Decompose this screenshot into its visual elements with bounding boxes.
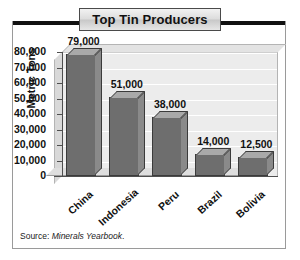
y-axis-tick-label: 10,000 (0, 154, 46, 166)
bar (152, 117, 182, 176)
y-axis-tick (57, 83, 62, 84)
y-axis-tick (57, 99, 62, 100)
source-note: Source: Minerals Yearbook. (20, 231, 124, 241)
source-prefix: Source: (20, 231, 52, 241)
bar-value-label: 14,000 (189, 135, 237, 147)
bar-side-face (138, 91, 145, 175)
y-axis-tick-label: 20,000 (0, 138, 46, 150)
bar-value-label: 79,000 (60, 35, 108, 47)
chart-title-box: Top Tin Producers (79, 8, 221, 31)
plot-wrapper: 80,00070,00060,00050,00040,00030,00020,0… (54, 44, 278, 184)
y-axis-tick-label: 70,000 (0, 61, 46, 73)
bar (66, 54, 96, 176)
y-axis-tick-label: 0 (0, 169, 46, 181)
source-publication: Minerals Yearbook (52, 231, 122, 241)
chart-figure: Top Tin Producers Metric Tons 80,00070,0… (0, 0, 300, 260)
y-axis-tick (57, 68, 62, 69)
y-axis-tick (57, 145, 62, 146)
y-axis-tick-label: 60,000 (0, 76, 46, 88)
bar-value-label: 51,000 (103, 78, 151, 90)
y-axis-tick-label: 30,000 (0, 123, 46, 135)
y-axis-line (62, 52, 63, 177)
y-axis-tick (57, 114, 62, 115)
plot-left-wall (54, 52, 62, 184)
bar-value-label: 38,000 (146, 98, 194, 110)
bar-side-face (181, 111, 188, 175)
chart-title: Top Tin Producers (92, 12, 207, 27)
source-suffix: . (122, 231, 124, 241)
bar (109, 97, 139, 176)
y-axis-tick (57, 161, 62, 162)
y-axis-tick (57, 52, 62, 53)
y-axis-tick (57, 130, 62, 131)
y-axis-tick-label: 40,000 (0, 107, 46, 119)
bar (238, 157, 268, 176)
bar-side-face (95, 48, 102, 175)
y-axis-tick (57, 176, 62, 177)
bar-value-label: 12,500 (232, 138, 280, 150)
y-axis-tick-label: 50,000 (0, 92, 46, 104)
x-axis-line (54, 176, 278, 177)
bar (195, 154, 225, 176)
y-axis-tick-label: 80,000 (0, 45, 46, 57)
